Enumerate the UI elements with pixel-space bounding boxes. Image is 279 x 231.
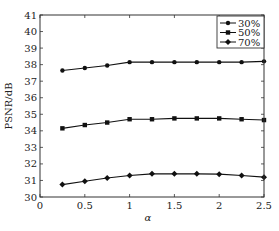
y-tick-label: 39 — [24, 43, 37, 54]
series-70pct — [59, 171, 267, 188]
circle-marker — [105, 63, 109, 67]
y-tick-label: 33 — [24, 142, 37, 153]
y-tick-label: 32 — [24, 158, 37, 169]
circle-marker — [150, 60, 154, 64]
square-marker — [105, 120, 109, 124]
square-marker — [226, 30, 230, 34]
series-30pct — [60, 59, 266, 73]
diamond-marker — [127, 172, 133, 178]
square-marker — [60, 126, 64, 130]
diamond-marker — [216, 171, 222, 177]
square-marker — [83, 123, 87, 127]
x-axis-label: α — [145, 212, 152, 223]
circle-marker — [60, 68, 64, 72]
square-marker — [217, 116, 221, 120]
series-layer — [59, 59, 267, 187]
y-tick-label: 30 — [24, 192, 37, 203]
psnr-line-chart: 00.511.522.5303132333435363738394041 30%… — [0, 0, 279, 231]
square-marker — [195, 116, 199, 120]
circle-marker — [239, 60, 243, 64]
diamond-marker — [171, 171, 177, 177]
circle-marker — [195, 60, 199, 64]
square-marker — [239, 117, 243, 121]
square-marker — [150, 117, 154, 121]
series-line — [62, 174, 264, 185]
series-50pct — [60, 116, 266, 130]
x-tick-label: 0.5 — [77, 200, 93, 211]
circle-marker — [83, 66, 87, 70]
y-tick-label: 34 — [24, 125, 37, 136]
y-tick-label: 41 — [24, 10, 37, 21]
diamond-marker — [82, 178, 88, 184]
legend-label: 70% — [238, 37, 260, 48]
circle-marker — [226, 21, 230, 25]
y-axis-label: PSNR/dB — [3, 83, 14, 130]
diamond-marker — [149, 171, 155, 177]
circle-marker — [217, 60, 221, 64]
diamond-marker — [239, 172, 245, 178]
y-tick-label: 40 — [24, 26, 37, 37]
diamond-marker — [59, 182, 65, 188]
diamond-marker — [194, 171, 200, 177]
x-tick-label: 2 — [216, 200, 222, 211]
x-tick-label: 1 — [126, 200, 132, 211]
x-tick-label: 2.5 — [256, 200, 272, 211]
x-tick-label: 0 — [37, 200, 43, 211]
square-marker — [127, 117, 131, 121]
y-tick-label: 37 — [24, 76, 37, 87]
legend: 30%50%70% — [217, 16, 264, 48]
series-line — [62, 61, 264, 70]
series-line — [62, 118, 264, 128]
circle-marker — [172, 60, 176, 64]
diamond-marker — [104, 175, 110, 181]
y-tick-label: 36 — [24, 92, 37, 103]
circle-marker — [127, 60, 131, 64]
square-marker — [172, 116, 176, 120]
y-tick-label: 35 — [24, 109, 37, 120]
y-tick-label: 31 — [24, 175, 37, 186]
y-tick-label: 38 — [24, 59, 37, 70]
x-tick-label: 1.5 — [166, 200, 182, 211]
